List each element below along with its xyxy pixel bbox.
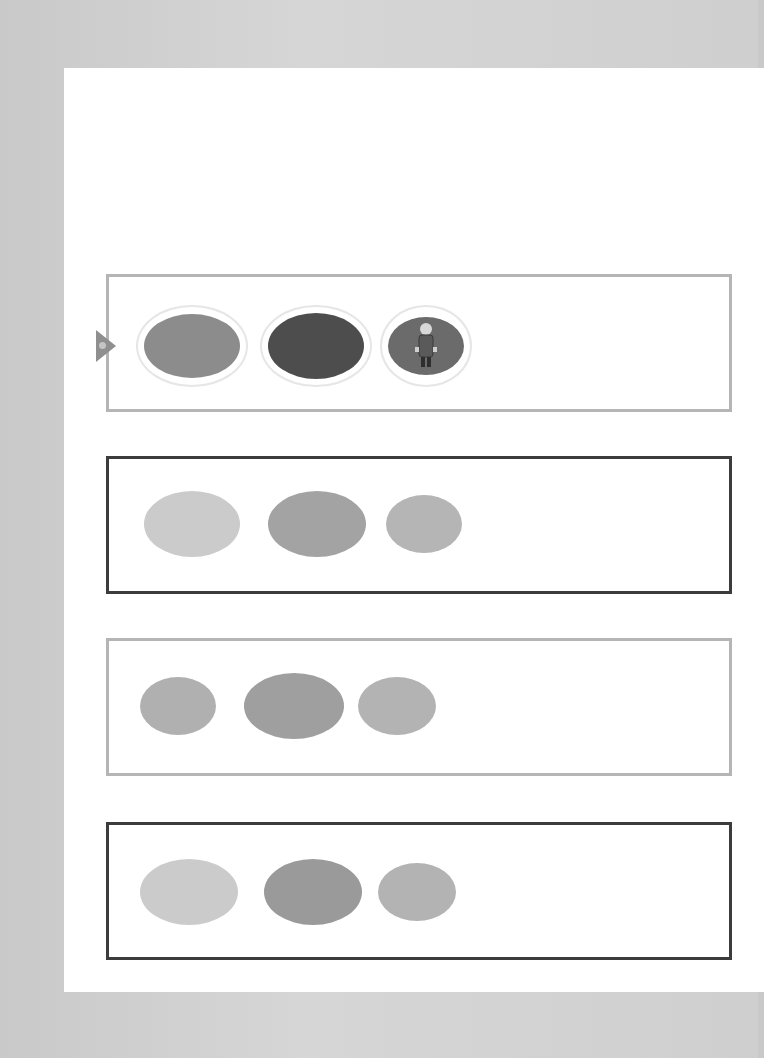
blank-adjective-sticker-spot[interactable] xyxy=(268,491,366,557)
blank-noun-sticker-spot[interactable] xyxy=(378,863,456,921)
adjective-sticker-label xyxy=(268,313,364,379)
blank-adjective-sticker-spot[interactable] xyxy=(264,859,362,925)
blank-verb-sticker-spot[interactable] xyxy=(140,859,238,925)
adjective-sticker[interactable] xyxy=(260,305,372,387)
blank-noun-sticker-spot[interactable] xyxy=(358,677,436,735)
blank-noun-sticker-spot[interactable] xyxy=(386,495,462,553)
blank-verb-sticker-spot[interactable] xyxy=(144,491,240,557)
blank-adjective-sticker-spot[interactable] xyxy=(140,677,216,735)
sentence-3 xyxy=(128,858,464,926)
verb-sticker-label xyxy=(144,314,240,378)
sentence-1 xyxy=(128,490,470,558)
example-sentence xyxy=(128,306,480,386)
noun-sticker[interactable] xyxy=(380,305,472,387)
verb-sticker[interactable] xyxy=(136,305,248,387)
character-figure-icon xyxy=(411,321,441,371)
blank-verb-sticker-spot[interactable] xyxy=(244,673,344,739)
sentence-2 xyxy=(128,672,446,740)
pointer-dot-icon xyxy=(99,342,106,349)
